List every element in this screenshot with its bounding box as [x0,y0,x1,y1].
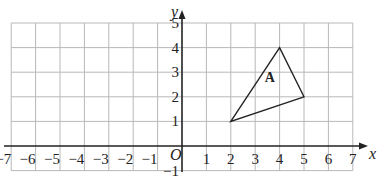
y-tick-label: 4 [172,40,180,56]
x-tick-label: 6 [325,151,333,167]
y-tick-label: 1 [172,113,180,129]
x-tick-label: 1 [203,151,211,167]
origin-label: O [170,146,182,163]
y-axis-arrow-icon [179,10,186,19]
y-tick-label: −1 [163,163,179,178]
x-tick-label: 4 [276,151,284,167]
x-tick-label: −6 [20,151,36,167]
x-tick-label: 2 [227,151,235,167]
x-tick-label: −4 [68,151,84,167]
x-axis-label: x [368,145,376,162]
x-tick-label: −3 [93,151,109,167]
x-tick-label: −7 [0,151,12,167]
y-tick-label: 2 [172,89,180,105]
x-tick-label: 7 [349,151,357,167]
x-tick-label: −2 [117,151,133,167]
shapes: A [231,48,304,122]
y-tick-label: 5 [172,15,180,31]
x-axis-arrow-icon [359,143,368,150]
shape-label: A [265,70,276,85]
x-tick-label: −5 [44,151,60,167]
x-tick-label: −1 [142,151,158,167]
y-tick-label: 3 [172,64,180,80]
x-tick-label: 5 [300,151,308,167]
coordinate-grid-diagram: x y O −7−6−5−4−3−2−11234567−112345 A [0,0,380,178]
x-tick-label: 3 [251,151,259,167]
